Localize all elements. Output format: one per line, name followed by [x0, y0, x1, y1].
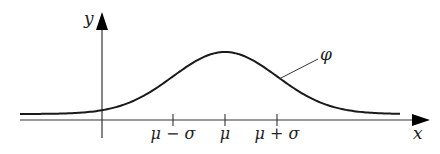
- diagram-canvas: φ y x μ − σ μ μ + σ: [0, 0, 440, 154]
- curve-label: φ: [320, 44, 332, 64]
- tick-label-mu-plus-sigma: μ + σ: [255, 124, 301, 143]
- y-axis-label: y: [83, 8, 94, 28]
- normal-distribution-diagram: φ y x μ − σ μ μ + σ: [0, 0, 440, 154]
- x-axis-label: x: [413, 123, 423, 143]
- tick-label-mu: μ: [220, 124, 230, 143]
- tick-label-mu-minus-sigma: μ − σ: [151, 124, 197, 143]
- curve-label-leader: [279, 59, 318, 79]
- y-axis-arrow-icon: [96, 12, 108, 30]
- density-curve: [20, 52, 400, 114]
